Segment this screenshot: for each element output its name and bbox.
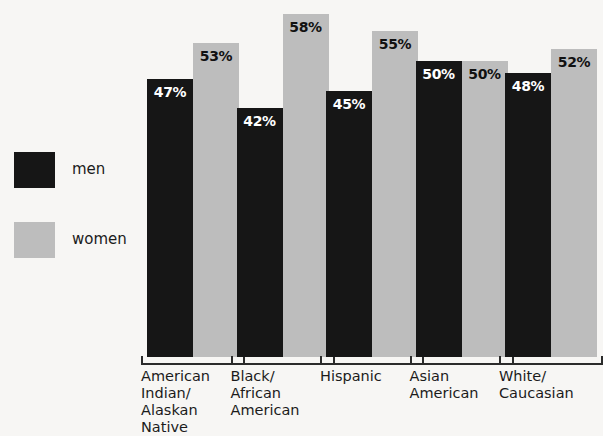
axis-bracket xyxy=(320,356,424,365)
category-label: AmericanIndian/AlaskanNative xyxy=(141,368,210,436)
axis-bracket xyxy=(141,356,245,365)
bar-value-label: 48% xyxy=(505,78,551,94)
bar-women: 53% xyxy=(193,43,239,357)
bar-value-label: 42% xyxy=(237,113,283,129)
bar-value-label: 52% xyxy=(551,54,597,70)
bar-group-bars: 42%58% xyxy=(237,14,329,357)
bar-group-bars: 50%50% xyxy=(416,61,508,357)
bar-value-label: 55% xyxy=(372,36,418,52)
category-label: AsianAmerican xyxy=(410,368,479,402)
bar-men: 45% xyxy=(326,91,372,357)
bar-women: 52% xyxy=(551,49,597,357)
category-label: White/Caucasian xyxy=(499,368,574,402)
bar-value-label: 53% xyxy=(193,48,239,64)
bar-value-label: 50% xyxy=(416,66,462,82)
bar-men: 47% xyxy=(147,79,193,357)
axis-bracket xyxy=(499,356,603,365)
bar-women: 55% xyxy=(372,31,418,357)
bar-value-label: 50% xyxy=(462,66,508,82)
bar-women: 58% xyxy=(283,14,329,357)
bar-group-bars: 47%53% xyxy=(147,43,239,357)
bar-men: 50% xyxy=(416,61,462,357)
bar-value-label: 58% xyxy=(283,19,329,35)
bar-group-bars: 45%55% xyxy=(326,31,418,357)
bar-men: 48% xyxy=(505,73,551,357)
bar-women: 50% xyxy=(462,61,508,357)
axis-bracket xyxy=(231,356,335,365)
category-label: Hispanic xyxy=(320,368,382,385)
axis-bracket xyxy=(410,356,514,365)
bar-group-bars: 48%52% xyxy=(505,49,597,357)
bar-value-label: 45% xyxy=(326,96,372,112)
bar-value-label: 47% xyxy=(147,84,193,100)
bar-men: 42% xyxy=(237,108,283,357)
category-label: Black/AfricanAmerican xyxy=(231,368,300,419)
